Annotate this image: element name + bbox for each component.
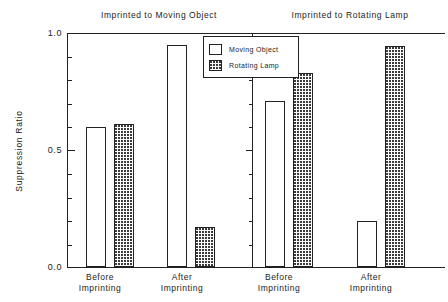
legend-entry-rotating-lamp: Rotating Lamp [209,57,293,73]
y-tick-minor-0.9 [68,57,72,58]
x-tick-label-p1-before-line2: Imprinting [236,283,322,294]
mid-tick-minor-0.8 [249,80,253,81]
mid-tick-major-0.5 [246,150,253,151]
y-tick-minor-0.4 [68,174,72,175]
bar-p0-after-rotating-lamp [195,227,215,267]
y-tick-minor-0.7 [68,104,72,105]
bar-p1-before-moving-object [265,101,285,267]
y-tick-major-1 [68,33,75,34]
x-tick-label-p0-before: Before Imprinting [57,272,143,294]
mid-tick-minor-0.7 [249,104,253,105]
legend-swatch-open-icon [209,44,222,55]
axis-top [67,33,445,34]
bar-p0-after-moving-object [167,45,187,267]
y-tick-minor-0.3 [68,198,72,199]
y-axis-label: Suppression Ratio [14,91,24,211]
legend-entry-moving-object: Moving Object [209,41,293,57]
mid-tick-minor-0.2 [249,221,253,222]
y-tick-minor-0.2 [68,221,72,222]
bar-p1-after-moving-object [357,221,377,267]
x-tick-label-p1-after-line1: After [328,272,414,283]
x-tick-label-p0-after-line2: Imprinting [139,283,225,294]
bar-p1-before-rotating-lamp [293,73,313,267]
x-tick-label-p1-before-line1: Before [236,272,322,283]
legend-swatch-dotted-icon [209,60,222,71]
x-tick-label-p1-before: Before Imprinting [236,272,322,294]
x-tick-label-p1-after: After Imprinting [328,272,414,294]
y-tick-major-0 [68,267,75,268]
mid-tick-minor-0.1 [249,245,253,246]
y-tick-label-1: 1.0 [28,28,62,38]
x-tick-label-p1-after-line2: Imprinting [328,283,414,294]
x-tick-label-p0-before-line1: Before [57,272,143,283]
mid-tick-minor-0.4 [249,174,253,175]
x-tick-label-p0-after-line1: After [139,272,225,283]
mid-tick-minor-0.6 [249,127,253,128]
mid-tick-minor-0.3 [249,198,253,199]
y-tick-minor-0.1 [68,245,72,246]
chart-legend: Moving Object Rotating Lamp [203,36,299,78]
x-tick-label-p0-after: After Imprinting [139,272,225,294]
axis-bottom [67,267,445,268]
chart-figure: Imprinted to Moving Object Imprinted to … [0,0,448,302]
y-tick-minor-0.8 [68,80,72,81]
y-tick-major-0.5 [68,150,75,151]
legend-label-rotating-lamp: Rotating Lamp [229,62,279,69]
y-tick-label-0: 0.0 [28,262,62,272]
bar-p0-before-rotating-lamp [114,124,134,267]
bar-p0-before-moving-object [86,127,106,267]
panel-title-left: Imprinted to Moving Object [66,10,252,20]
bar-p1-after-rotating-lamp [385,46,405,267]
legend-label-moving-object: Moving Object [229,46,278,53]
panel-title-right: Imprinted to Rotating Lamp [252,10,448,20]
x-tick-label-p0-before-line2: Imprinting [57,283,143,294]
y-tick-minor-0.6 [68,127,72,128]
y-tick-label-0point5: 0.5 [28,145,62,155]
